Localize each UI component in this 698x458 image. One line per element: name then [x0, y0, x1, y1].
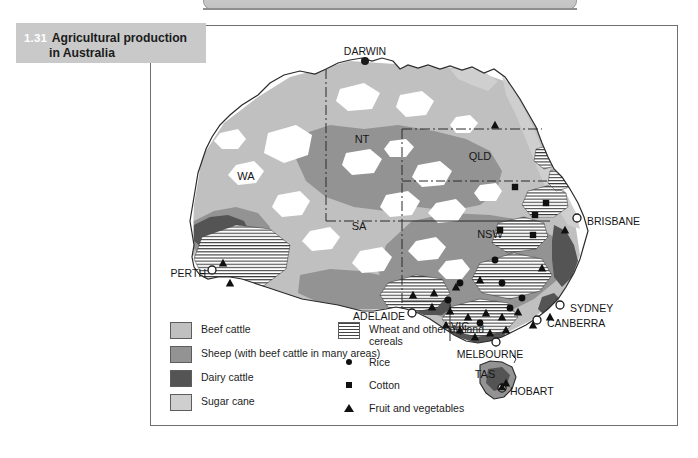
legend-item: Rice [338, 355, 500, 369]
fruit-symbol [226, 279, 234, 287]
figure-title-plaque: 1.31 Agricultural production in Australi… [16, 23, 206, 63]
wheat-hatch-swatch [338, 322, 360, 339]
city-marker [573, 214, 581, 222]
page-header-bar-shadow [203, 8, 577, 10]
city-label: PERTH [171, 267, 206, 279]
state-label: WA [237, 170, 255, 182]
rice-symbol [499, 280, 506, 287]
city-marker [208, 266, 216, 274]
city-label: ADELAIDE [353, 310, 405, 322]
figure-title-line1: Agricultural production [52, 31, 187, 45]
city-label: HOBART [510, 385, 554, 397]
figure-title: Agricultural production in Australia [24, 31, 198, 61]
rice-symbol [507, 305, 514, 312]
legend-item: Fruit and vegetables [338, 401, 500, 415]
figure-title-line2: in Australia [24, 46, 198, 61]
cotton-symbol [532, 212, 538, 218]
legend-label: Rice [369, 355, 390, 368]
dairy-cattle-swatch [170, 370, 192, 387]
figure-number: 1.31 [24, 32, 47, 44]
sheep-swatch [170, 346, 192, 363]
fruit-triangle-icon [338, 401, 360, 415]
city-label: BRISBANE [587, 215, 640, 227]
rice-symbol [445, 297, 452, 304]
state-label: QLD [469, 150, 492, 162]
legend-label: Wheat and other dryland cereals [369, 322, 500, 348]
city-marker [556, 301, 564, 309]
legend-label: Cotton [369, 378, 400, 391]
cotton-symbol [530, 232, 536, 238]
beef-cattle-swatch [170, 322, 192, 339]
rice-symbol [492, 257, 499, 264]
legend-item: Wheat and other dryland cereals [338, 322, 500, 348]
state-label: NT [355, 133, 370, 145]
city-label: SYDNEY [570, 302, 613, 314]
city-label: CANBERRA [547, 317, 605, 329]
legend-label: Sugar cane [201, 394, 255, 407]
city-label: DARWIN [344, 45, 386, 57]
rice-dot-icon [338, 355, 360, 369]
cotton-symbol [497, 227, 503, 233]
rice-symbol [519, 295, 526, 302]
legend-item: Cotton [338, 378, 500, 392]
city-marker [533, 316, 541, 324]
cotton-symbol [543, 200, 549, 206]
legend-label: Beef cattle [201, 322, 251, 335]
map-legend: Beef cattle Sheep (with beef cattle in m… [170, 322, 500, 428]
city-marker [408, 309, 416, 317]
city-marker [361, 57, 369, 65]
legend-label: Fruit and vegetables [369, 401, 464, 414]
state-label: SA [352, 220, 367, 232]
sugar-cane-swatch [170, 394, 192, 411]
cotton-square-icon [338, 378, 360, 392]
legend-column-symbols: Wheat and other dryland cereals Rice Cot… [338, 322, 500, 424]
legend-label: Dairy cattle [201, 370, 254, 383]
rice-symbol [457, 280, 464, 287]
cotton-symbol [512, 184, 518, 190]
